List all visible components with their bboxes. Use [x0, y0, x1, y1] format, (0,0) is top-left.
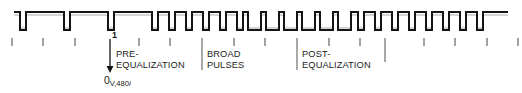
origin-subscript: V,480i [110, 79, 131, 88]
origin-subscript-italic: i [129, 79, 131, 88]
label-pre-equalization-line2: EQUALIZATION [116, 60, 185, 71]
timing-tick-marks [12, 38, 518, 46]
origin-time-label: 0V,480i [104, 75, 131, 87]
video-sync-waveform-diagram: 1 PRE- EQUALIZATION BROAD PULSES POST- E… [0, 0, 522, 93]
label-pre-equalization-line1: PRE- [116, 49, 139, 60]
marker-arrowhead [107, 66, 114, 73]
label-post-equalization-line2: EQUALIZATION [302, 60, 371, 71]
label-broad-pulses-line2: PULSES [207, 60, 244, 71]
origin-subscript-prefix: V,480 [110, 79, 129, 88]
label-post-equalization-line1: POST- [302, 49, 330, 60]
line-one-marker [107, 39, 114, 73]
waveform-svg [0, 0, 522, 93]
label-broad-pulses-line1: BROAD [207, 49, 241, 60]
line-number-marker: 1 [112, 31, 117, 40]
